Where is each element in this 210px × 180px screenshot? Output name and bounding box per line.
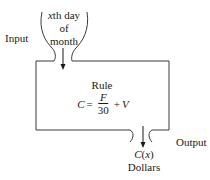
output-value: C(x) bbox=[134, 148, 154, 160]
formula-addend: V bbox=[122, 98, 129, 110]
input-value-line-1: xth day bbox=[48, 9, 80, 21]
formula-numerator: F bbox=[98, 91, 109, 104]
formula-lhs: C bbox=[77, 98, 84, 110]
input-arrow-head bbox=[61, 64, 66, 70]
rule-formula: C = F 30 + V bbox=[77, 91, 129, 116]
output-lip-left bbox=[130, 130, 133, 142]
output-unit: Dollars bbox=[128, 161, 160, 173]
input-label: Input bbox=[5, 32, 28, 44]
formula-plus: + bbox=[114, 98, 120, 110]
rule-title: Rule bbox=[92, 79, 113, 91]
input-value-line-1-rest: th day bbox=[53, 9, 80, 21]
input-value-line-3: month bbox=[50, 35, 78, 47]
output-lip-right bbox=[149, 130, 152, 142]
formula-denominator: 30 bbox=[96, 104, 111, 116]
formula-equals: = bbox=[87, 98, 93, 110]
input-value-line-2: of bbox=[59, 22, 68, 34]
formula-fraction: F 30 bbox=[96, 91, 111, 116]
output-label: Output bbox=[176, 136, 207, 148]
